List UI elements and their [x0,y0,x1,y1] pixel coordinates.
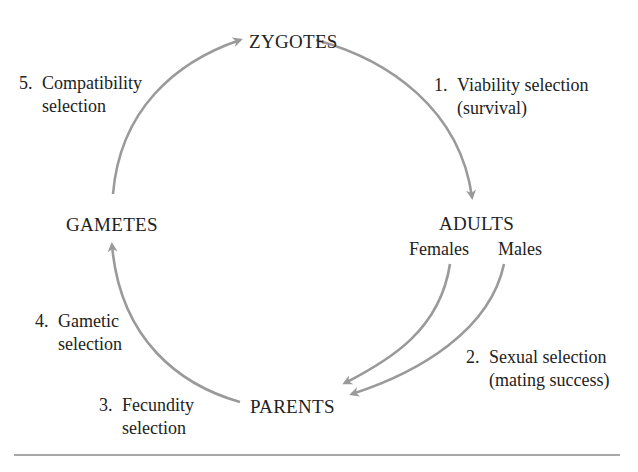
node-adults-females: Females [409,240,469,258]
stage-label-viability: 1.Viability selection (survival) [434,74,588,120]
arrow-females-to-parents [345,264,450,383]
stage-label-sexual: 2.Sexual selection (mating success) [466,346,609,392]
stage-label-gametic: 4.Gametic selection [35,310,122,356]
stage-number: 1. [434,74,457,97]
stage-line2: selection [19,95,142,118]
stage-line1: Compatibility [42,73,142,93]
node-gametes: GAMETES [66,215,158,234]
life-cycle-selection-diagram: ZYGOTES ADULTS Females Males PARENTS GAM… [0,0,638,472]
stage-line2: selection [99,417,194,440]
stage-line1: Sexual selection [489,347,606,367]
stage-label-compatibility: 5.Compatibility selection [19,72,142,118]
bottom-divider [14,454,620,456]
stage-line1: Fecundity [122,395,194,415]
stage-number: 4. [35,310,58,333]
stage-number: 2. [466,346,489,369]
stage-line2: (mating success) [466,369,609,392]
stage-label-fecundity: 3.Fecundity selection [99,394,194,440]
node-adults: ADULTS [439,214,514,233]
node-parents: PARENTS [250,397,335,416]
stage-line2: (survival) [434,97,588,120]
stage-number: 3. [99,394,122,417]
stage-line2: selection [35,333,122,356]
node-zygotes: ZYGOTES [249,32,338,51]
node-adults-males: Males [498,240,542,258]
arrow-parents-to-gametes [112,245,240,402]
stage-line1: Viability selection [457,75,588,95]
stage-line1: Gametic [58,311,119,331]
stage-number: 5. [19,72,42,95]
